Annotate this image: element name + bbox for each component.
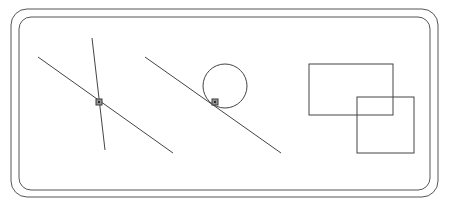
intersection-marker-left	[96, 99, 102, 105]
marker-center-dot	[98, 101, 100, 103]
marker-center-dot	[214, 101, 216, 103]
intersection-marker-right	[212, 99, 218, 105]
canvas-background	[0, 0, 450, 206]
diagram-canvas	[0, 0, 450, 206]
geometry-figure	[0, 0, 450, 206]
